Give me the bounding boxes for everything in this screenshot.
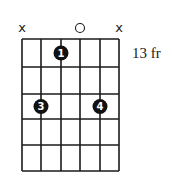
finger-dot: 4 (93, 99, 108, 114)
chord-diagram: xx 134 13 fr (0, 0, 172, 184)
muted-string-icon: x (115, 20, 123, 35)
finger-number: 3 (38, 101, 45, 112)
muted-string-icon: x (18, 20, 26, 35)
finger-number: 1 (58, 48, 65, 59)
finger-number: 4 (97, 101, 104, 112)
finger-dots: 134 (34, 46, 108, 115)
open-string-icon (76, 24, 85, 33)
finger-dot: 3 (34, 99, 49, 114)
finger-dot: 1 (54, 46, 69, 61)
open-muted-markers: xx (18, 20, 123, 35)
fret-position-label: 13 fr (132, 45, 161, 61)
